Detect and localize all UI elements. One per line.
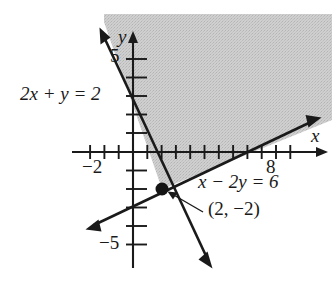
graph-canvas bbox=[0, 0, 332, 285]
equation-label-1: 2x + y = 2 bbox=[20, 84, 101, 103]
intersection-point-marker bbox=[156, 183, 169, 196]
x-axis-label: x bbox=[311, 126, 319, 145]
y-axis-label: y bbox=[118, 27, 126, 46]
y-tick-label-negative-5: −5 bbox=[99, 233, 119, 252]
x-tick-label-negative-2: −2 bbox=[82, 157, 102, 176]
x-tick-label-8: 8 bbox=[266, 157, 276, 176]
intersection-point-label: (2, −2) bbox=[208, 199, 260, 218]
math-figure: 2x + y = 2 x − 2y = 6 (2, −2) x y −2 8 5… bbox=[0, 0, 332, 285]
y-tick-label-5: 5 bbox=[110, 46, 120, 65]
